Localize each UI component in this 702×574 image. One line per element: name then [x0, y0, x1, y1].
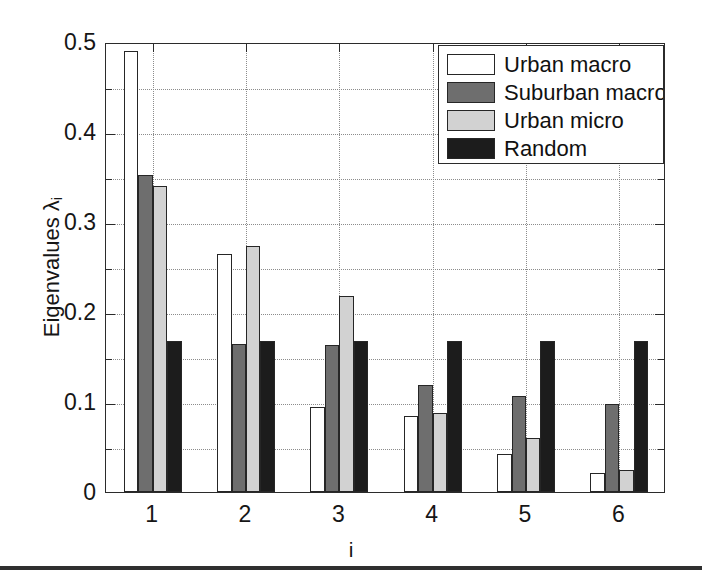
y-tick-label: 0.3: [64, 211, 96, 234]
gridline-horizontal: [106, 449, 664, 450]
y-tick-major: [106, 404, 115, 405]
bar-urban-micro-2: [246, 246, 260, 492]
bar-random-3: [354, 341, 368, 492]
bar-urban-micro-5: [526, 438, 540, 492]
legend-box: Urban macroSuburban macroUrban microRand…: [438, 45, 664, 164]
gridline-horizontal: [106, 179, 664, 180]
y-tick-major: [106, 314, 115, 315]
x-tick-major: [246, 44, 247, 52]
bar-random-4: [447, 341, 461, 492]
bar-suburban-macro-5: [512, 396, 526, 492]
y-tick-major: [106, 134, 115, 135]
bar-urban-macro-4: [404, 416, 418, 493]
y-tick-label: 0.5: [64, 31, 96, 54]
page-bottom-rule: [0, 566, 702, 570]
gridline-horizontal: [106, 269, 664, 270]
x-tick-major: [153, 44, 154, 52]
bar-urban-micro-1: [153, 186, 167, 492]
legend-swatch-urban-micro: [447, 110, 495, 131]
x-tick-label: 3: [332, 503, 345, 526]
x-tick-major: [433, 44, 434, 52]
bar-suburban-macro-1: [138, 175, 152, 492]
bar-suburban-macro-3: [325, 345, 339, 492]
bar-suburban-macro-4: [418, 385, 432, 492]
gridline-horizontal: [106, 224, 664, 225]
legend-entry-random: Random: [439, 134, 663, 163]
y-tick-minor: [106, 269, 112, 270]
bar-random-6: [634, 341, 648, 492]
x-tick-major: [339, 44, 340, 52]
y-tick-label: 0.2: [64, 301, 96, 324]
bar-random-2: [260, 341, 274, 492]
legend-label: Suburban macro: [504, 82, 664, 104]
gridline-horizontal: [106, 404, 664, 405]
y-axis-title-subscript: i: [49, 197, 65, 200]
bar-urban-macro-5: [497, 454, 511, 492]
gridline-horizontal: [106, 314, 664, 315]
legend-swatch-urban-macro: [447, 54, 495, 75]
bar-suburban-macro-6: [605, 404, 619, 492]
legend-label: Urban macro: [504, 54, 631, 76]
legend-entry-urban-micro: Urban micro: [439, 106, 663, 135]
y-tick-minor: [658, 449, 664, 450]
x-axis-title: i: [0, 538, 702, 562]
bar-urban-micro-4: [433, 413, 447, 492]
y-tick-minor: [106, 449, 112, 450]
bar-random-5: [540, 341, 554, 492]
y-tick-minor: [658, 359, 664, 360]
y-axis-title-text: Eigenvalues λ: [39, 200, 64, 337]
y-tick-major: [655, 314, 664, 315]
y-tick-minor: [658, 179, 664, 180]
x-tick-label: 2: [239, 503, 252, 526]
x-tick-label: 6: [612, 503, 625, 526]
legend-entry-suburban-macro: Suburban macro: [439, 78, 663, 107]
figure-canvas: Eigenvalues λi 00.10.20.30.40.5123456 i …: [0, 0, 702, 574]
bar-suburban-macro-2: [232, 344, 246, 493]
bar-random-1: [167, 341, 181, 492]
bar-urban-macro-3: [310, 407, 324, 493]
bar-urban-macro-2: [217, 254, 231, 492]
y-tick-minor: [106, 359, 112, 360]
y-tick-minor: [658, 269, 664, 270]
y-tick-label: 0.4: [64, 121, 96, 144]
y-tick-major: [655, 224, 664, 225]
y-tick-label: 0.1: [64, 391, 96, 414]
y-tick-major: [106, 224, 115, 225]
y-tick-minor: [106, 89, 112, 90]
y-axis-title: Eigenvalues λi: [39, 127, 65, 407]
bar-urban-micro-3: [339, 296, 353, 492]
x-tick-label: 1: [145, 503, 158, 526]
bar-urban-micro-6: [619, 470, 633, 492]
legend-label: Random: [504, 138, 587, 160]
legend-label: Urban micro: [504, 110, 624, 132]
x-tick-label: 5: [519, 503, 532, 526]
y-tick-label: 0: [83, 481, 96, 504]
gridline-horizontal: [106, 359, 664, 360]
legend-entry-urban-macro: Urban macro: [439, 50, 663, 79]
bar-urban-macro-1: [124, 51, 138, 492]
x-tick-label: 4: [425, 503, 438, 526]
bar-urban-macro-6: [590, 473, 604, 492]
y-tick-major: [655, 404, 664, 405]
legend-swatch-random: [447, 138, 495, 159]
legend-swatch-suburban-macro: [447, 82, 495, 103]
y-tick-minor: [106, 179, 112, 180]
